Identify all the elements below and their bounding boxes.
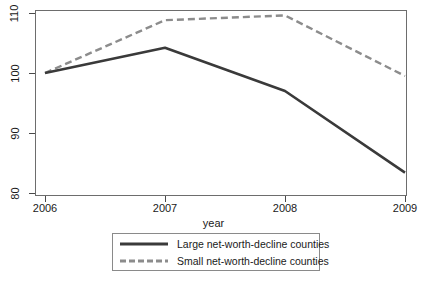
y-tick-label-90-text: 90 bbox=[10, 127, 21, 139]
chart-legend: Large net-worth-decline counties Small n… bbox=[112, 233, 320, 271]
x-tick-label-2006: 2006 bbox=[33, 203, 57, 214]
y-tick-label-110-text: 110 bbox=[9, 4, 20, 22]
x-tick-label-2007: 2007 bbox=[153, 203, 177, 214]
y-tick-label-110: 110 bbox=[2, 6, 28, 20]
y-tick-label-90: 90 bbox=[2, 126, 28, 140]
line-chart-figure: 110 100 90 80 2006 2007 2008 2009 year L… bbox=[0, 0, 427, 284]
solid-line-swatch-icon bbox=[119, 239, 169, 249]
x-axis-title: year bbox=[0, 218, 427, 229]
x-tick-label-2008: 2008 bbox=[273, 203, 297, 214]
legend-entry-small: Small net-worth-decline counties bbox=[119, 253, 329, 269]
x-tick-label-2009: 2009 bbox=[393, 203, 417, 214]
y-tick-100 bbox=[29, 73, 35, 74]
y-tick-90 bbox=[29, 133, 35, 134]
y-tick-label-80-text: 80 bbox=[10, 187, 21, 199]
y-tick-110 bbox=[29, 13, 35, 14]
plot-area-frame bbox=[35, 10, 407, 196]
legend-label-small: Small net-worth-decline counties bbox=[177, 256, 329, 267]
y-tick-80 bbox=[29, 193, 35, 194]
y-tick-label-100-text: 100 bbox=[9, 64, 20, 82]
dashed-line-swatch-icon bbox=[119, 256, 169, 266]
legend-label-large: Large net-worth-decline counties bbox=[177, 239, 329, 250]
legend-entry-large: Large net-worth-decline counties bbox=[119, 236, 329, 252]
y-tick-label-100: 100 bbox=[2, 66, 28, 80]
y-tick-label-80: 80 bbox=[2, 186, 28, 200]
